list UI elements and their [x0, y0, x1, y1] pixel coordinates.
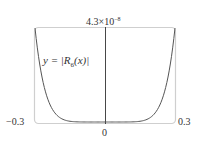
- curve-r6: [35, 28, 175, 122]
- plot-frame: [35, 28, 176, 124]
- y-max-label: 4.3×10−8: [86, 14, 121, 27]
- x-min-label: −0.3: [6, 117, 24, 127]
- x-max-label: 0.3: [178, 117, 191, 127]
- curve-formula-label: y = |R6(x)|: [43, 55, 89, 70]
- x-zero-label: 0: [102, 128, 107, 138]
